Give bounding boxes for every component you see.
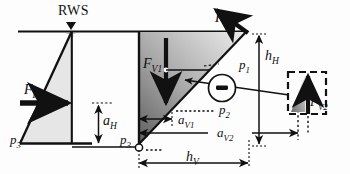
label-p1: p1 xyxy=(239,58,250,74)
label-p2: p2 xyxy=(219,103,230,119)
label-ah-sub: H xyxy=(110,121,117,131)
label-hv-sub: V xyxy=(193,157,199,167)
label-hh-base: h xyxy=(265,48,272,63)
label-fp: FP xyxy=(215,11,229,28)
label-fv2-sub: V2 xyxy=(318,102,328,112)
label-hh-sub: H xyxy=(272,56,279,66)
label-p2-sub: 2 xyxy=(226,110,230,120)
label-hv: hV xyxy=(186,150,199,167)
label-fh-base: F xyxy=(24,82,33,97)
label-av2-sub: V2 xyxy=(224,133,234,143)
label-fv1-sub: V1 xyxy=(152,64,163,74)
label-hh: hH xyxy=(265,49,279,66)
label-ah-base: a xyxy=(103,113,110,128)
label-av1-sub: V1 xyxy=(185,120,195,130)
label-av1: aV1 xyxy=(178,113,194,129)
label-fh-sub: H xyxy=(33,90,40,100)
label-p3-mid: p3 xyxy=(120,133,131,149)
label-ah: aH xyxy=(103,114,117,131)
label-fv2: FV2 xyxy=(310,95,328,111)
label-hv-base: h xyxy=(186,149,193,164)
negative-pressure-badge-icon xyxy=(209,75,236,102)
label-fv2-base: F xyxy=(310,94,318,109)
label-fv1-base: F xyxy=(143,56,152,71)
label-fh: FH xyxy=(24,83,39,100)
label-av2: aV2 xyxy=(217,126,233,142)
label-fp-base: F xyxy=(215,10,224,25)
label-p3-left-sub: 3 xyxy=(17,140,21,150)
force-diagram: RWS FH FP FV1 FV2 aH aV1 aV2 hH hV p1 p2… xyxy=(0,0,350,174)
label-rws: RWS xyxy=(58,4,89,18)
diagram-canvas xyxy=(0,0,350,174)
label-p3-left: p3 xyxy=(10,133,21,149)
label-p3-mid-sub: 3 xyxy=(127,140,131,150)
label-fv1: FV1 xyxy=(143,57,162,74)
leader-negative-pressure xyxy=(185,80,289,95)
label-fp-sub: P xyxy=(224,18,230,28)
label-p1-sub: 1 xyxy=(246,65,250,75)
